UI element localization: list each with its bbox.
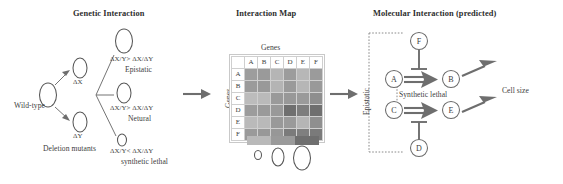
edge-c-to-e xyxy=(404,102,438,119)
edge-d-inhibits-ce xyxy=(411,122,427,140)
svg-text:E: E xyxy=(449,106,454,115)
node-e: E xyxy=(443,102,460,119)
cell-size-label: Cell size xyxy=(502,86,529,95)
node-b: B xyxy=(443,71,460,88)
node-f: F xyxy=(411,33,428,50)
node-a: A xyxy=(386,71,403,88)
edge-f-inhibits-ab xyxy=(411,50,427,69)
figure-root: Genetic Interaction Interaction Map Mole… xyxy=(0,0,563,184)
svg-text:F: F xyxy=(417,37,422,46)
edge-b-to-cell-size xyxy=(462,60,497,76)
node-d: D xyxy=(411,140,428,157)
synthetic-lethal-network-label: Synthetic lethal xyxy=(399,90,447,99)
svg-text:B: B xyxy=(448,75,453,84)
edge-e-to-cell-size xyxy=(462,96,497,112)
svg-text:A: A xyxy=(391,75,397,84)
node-c: C xyxy=(386,102,403,119)
svg-text:D: D xyxy=(416,144,422,153)
edge-a-to-b xyxy=(404,71,438,88)
svg-text:C: C xyxy=(391,106,396,115)
molecular-interaction-graphics: F A B C E D xyxy=(0,0,563,184)
epistatic-bracket-label: Epistatic xyxy=(362,88,371,115)
